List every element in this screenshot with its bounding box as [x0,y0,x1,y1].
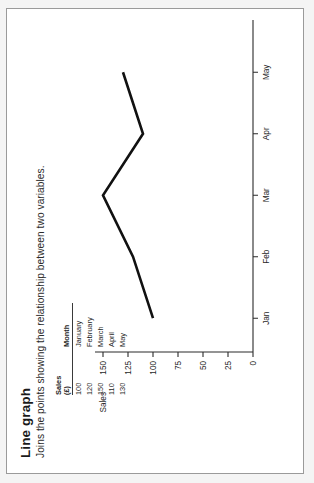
x-axis-ticks [253,72,258,318]
x-tick-label: Jan [262,311,271,325]
page-background: Line graph Joins the points showing the … [0,0,314,483]
y-axis-title: Sales [99,392,108,412]
y-tick-label: 25 [224,361,233,371]
y-axis-tick-labels: 0255075100125150 [99,361,258,375]
y-tick-label: 50 [199,361,208,371]
chart-axes [95,20,253,352]
x-axis-tick-labels: JanFebMarAprMay [262,64,271,325]
y-tick-label: 125 [124,361,133,375]
rotated-content-plane: Line graph Joins the points showing the … [8,10,302,472]
y-tick-label: 150 [99,361,108,375]
x-tick-label: Feb [262,249,271,264]
x-tick-label: Apr [262,127,271,140]
line-chart: 0255075100125150 JanFebMarAprMay Sales [8,10,302,472]
y-tick-label: 100 [149,361,158,375]
reference-card: Line graph Joins the points showing the … [6,8,304,474]
y-tick-label: 0 [249,361,258,366]
x-tick-label: Mar [262,188,271,202]
data-series-line [103,72,153,318]
card-content: Line graph Joins the points showing the … [8,10,302,472]
y-axis-ticks [103,352,253,357]
y-tick-label: 75 [174,361,183,371]
x-tick-label: May [262,64,271,80]
